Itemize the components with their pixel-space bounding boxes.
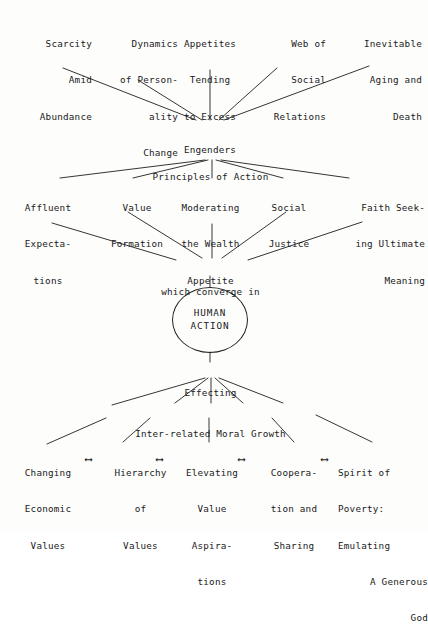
text-line: Aspira- bbox=[172, 540, 252, 552]
center-node-line-1: HUMAN bbox=[194, 307, 227, 320]
text-line: Abundance bbox=[8, 111, 92, 123]
text-line: Emulating bbox=[338, 540, 428, 552]
double-arrow-icon: ⟷ bbox=[156, 453, 162, 466]
text-line: Inevitable bbox=[328, 38, 422, 50]
text-line: A Generous bbox=[338, 576, 428, 588]
text-line: Amid bbox=[8, 74, 92, 86]
text-line: Social bbox=[247, 74, 326, 86]
wire-growth-to-changing bbox=[47, 418, 106, 444]
text-line: Coopera- bbox=[255, 467, 333, 479]
text-line: Social bbox=[253, 202, 325, 214]
text-line: Faith Seek- bbox=[320, 202, 425, 214]
text-line: ing Ultimate bbox=[320, 238, 425, 250]
center-node-line-2: ACTION bbox=[191, 320, 230, 333]
double-arrow-icon: ⟷ bbox=[238, 453, 244, 466]
link-elevating-to-cooperation: ⟷ bbox=[224, 454, 258, 466]
link-hierarchy-to-elevating: ⟷ bbox=[140, 454, 178, 466]
text-line: Appetites bbox=[163, 38, 257, 50]
text-line: Hierarchy bbox=[98, 467, 183, 479]
node-affluent-expectations: Affluent Expecta- tions bbox=[4, 178, 92, 311]
text-line: Poverty: bbox=[338, 503, 428, 515]
text-line: Tending bbox=[163, 74, 257, 86]
wire-growth-to-spirit bbox=[316, 415, 372, 442]
text-line: Moderating bbox=[158, 202, 263, 214]
text-line: Affluent bbox=[4, 202, 92, 214]
text-line: of bbox=[98, 503, 183, 515]
link-cooperation-to-spirit: ⟷ bbox=[307, 454, 341, 466]
text-line: Meaning bbox=[320, 275, 425, 287]
text-line: Values bbox=[98, 540, 183, 552]
text-line: Economic bbox=[4, 503, 92, 515]
text-line: Inter-related Moral Growth bbox=[103, 428, 318, 440]
node-scarcity-amid-abundance: Scarcity Amid Abundance bbox=[8, 14, 92, 147]
text-line: Effecting bbox=[163, 387, 258, 399]
text-line: the Wealth bbox=[158, 238, 263, 250]
text-line: Aging and bbox=[328, 74, 422, 86]
double-arrow-icon: ⟷ bbox=[321, 453, 327, 466]
text-line: tion and bbox=[255, 503, 333, 515]
text-line: Sharing bbox=[255, 540, 333, 552]
text-line: Values bbox=[4, 540, 92, 552]
text-line: Value bbox=[172, 503, 252, 515]
text-line: Changing bbox=[4, 467, 92, 479]
text-line: Spirit of bbox=[338, 467, 428, 479]
double-arrow-icon: ⟷ bbox=[85, 453, 91, 466]
link-changing-to-hierarchy: ⟷ bbox=[69, 454, 107, 466]
text-line: God bbox=[338, 612, 428, 624]
text-line: Death bbox=[328, 111, 422, 123]
node-elevating-value-aspirations: Elevating Value Aspira- tions bbox=[172, 443, 252, 612]
text-line: Scarcity bbox=[8, 38, 92, 50]
node-faith-seeking-ultimate-meaning: Faith Seek- ing Ultimate Meaning bbox=[320, 178, 425, 311]
text-line: tions bbox=[172, 576, 252, 588]
text-line: Elevating bbox=[172, 467, 252, 479]
text-line: tions bbox=[4, 275, 92, 287]
text-line: Justice bbox=[253, 238, 325, 250]
node-social-justice: Social Justice bbox=[253, 178, 325, 275]
text-line: Expecta- bbox=[4, 238, 92, 250]
node-inevitable-aging-and-death: Inevitable Aging and Death bbox=[328, 14, 422, 147]
text-line: Web of bbox=[247, 38, 326, 50]
center-node-human-action: HUMAN ACTION bbox=[172, 287, 248, 353]
node-spirit-of-poverty: Spirit of Poverty: Emulating A Generous … bbox=[338, 443, 428, 625]
